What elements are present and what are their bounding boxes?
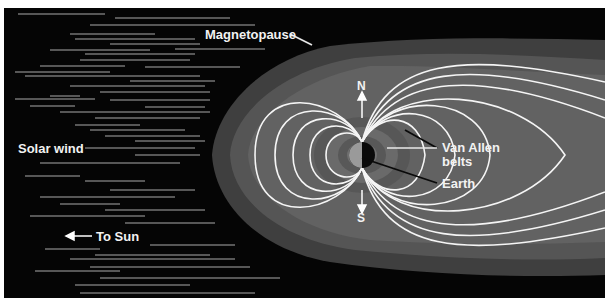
- magnetosphere-inner: [248, 66, 605, 244]
- north-label: N: [357, 79, 366, 93]
- south-label: S: [357, 211, 365, 225]
- van-allen-label-line2: belts: [442, 154, 472, 169]
- magnetosphere-diagram: Magnetopause Solar wind To Sun N S Van A…: [4, 8, 605, 298]
- to-sun-label: To Sun: [96, 229, 139, 244]
- magnetopause-label: Magnetopause: [205, 27, 296, 42]
- van-allen-label-line1: Van Allen: [442, 140, 500, 155]
- earth: [349, 142, 375, 168]
- earth-label: Earth: [442, 176, 475, 191]
- solar-wind-label: Solar wind: [18, 141, 84, 156]
